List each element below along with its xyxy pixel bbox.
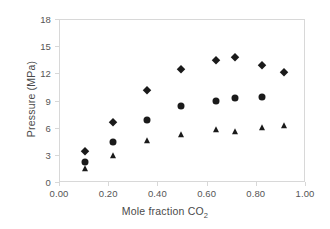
y-tick-mark xyxy=(55,155,59,156)
x-tick-mark xyxy=(157,182,158,186)
x-tick-label: 0.60 xyxy=(197,188,216,199)
data-point-triangle xyxy=(259,124,265,130)
data-point-circle xyxy=(213,97,220,104)
data-point-diamond xyxy=(280,68,288,76)
data-point-diamond xyxy=(177,65,185,73)
data-point-circle xyxy=(231,94,238,101)
x-axis-title-subscript: 2 xyxy=(204,211,208,220)
data-point-triangle xyxy=(178,131,184,137)
x-tick-mark xyxy=(305,182,306,186)
data-point-diamond xyxy=(109,118,117,126)
y-tick-mark xyxy=(55,101,59,102)
x-tick-label: 1.00 xyxy=(296,188,315,199)
data-point-diamond xyxy=(231,53,239,61)
data-point-triangle xyxy=(110,152,116,158)
x-tick-label: 0.80 xyxy=(246,188,265,199)
x-tick-mark xyxy=(108,182,109,186)
y-tick-mark xyxy=(55,19,59,20)
y-tick-mark xyxy=(55,128,59,129)
data-markers-layer xyxy=(60,20,304,181)
y-axis-title: Pressure (MPa) xyxy=(25,18,37,181)
x-tick-mark xyxy=(207,182,208,186)
x-tick-label: 0.20 xyxy=(99,188,118,199)
y-tick-mark xyxy=(55,73,59,74)
data-point-diamond xyxy=(81,147,89,155)
data-point-triangle xyxy=(232,129,238,135)
data-point-circle xyxy=(109,138,116,145)
data-point-diamond xyxy=(258,61,266,69)
data-point-triangle xyxy=(281,123,287,129)
data-point-circle xyxy=(144,116,151,123)
data-point-triangle xyxy=(213,126,219,132)
x-axis-title-base: Mole fraction CO xyxy=(122,205,204,217)
x-tick-label: 0.40 xyxy=(148,188,167,199)
data-point-triangle xyxy=(144,137,150,143)
data-point-circle xyxy=(177,103,184,110)
plot-area xyxy=(59,19,305,182)
x-tick-mark xyxy=(256,182,257,186)
x-tick-mark xyxy=(59,182,60,186)
data-point-diamond xyxy=(212,56,220,64)
scatter-chart-figure: 0369121518 0.000.200.400.600.801.00 Pres… xyxy=(0,0,330,229)
x-axis-title: Mole fraction CO2 xyxy=(0,205,330,217)
data-point-diamond xyxy=(143,86,151,94)
data-point-triangle xyxy=(82,165,88,171)
x-tick-label: 0.00 xyxy=(50,188,69,199)
y-tick-mark xyxy=(55,46,59,47)
data-point-circle xyxy=(258,93,265,100)
